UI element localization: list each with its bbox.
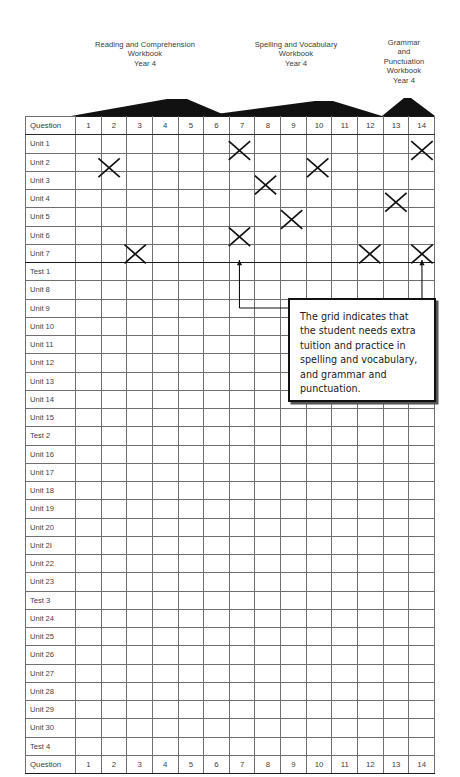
- cell[interactable]: [127, 135, 153, 153]
- cell[interactable]: [383, 409, 409, 427]
- cell[interactable]: [152, 354, 178, 372]
- cell[interactable]: [152, 518, 178, 536]
- cell[interactable]: [178, 226, 204, 244]
- cell[interactable]: [229, 701, 255, 719]
- cell[interactable]: [306, 135, 332, 153]
- cell[interactable]: [383, 719, 409, 737]
- cell[interactable]: [255, 390, 281, 408]
- cell[interactable]: [204, 317, 230, 335]
- cell[interactable]: [358, 190, 384, 208]
- cell[interactable]: [409, 263, 435, 281]
- cell[interactable]: [255, 354, 281, 372]
- cell[interactable]: [127, 536, 153, 554]
- cell[interactable]: [229, 263, 255, 281]
- cell[interactable]: [101, 354, 127, 372]
- cell[interactable]: [358, 171, 384, 189]
- cell[interactable]: [409, 153, 435, 171]
- cell[interactable]: [281, 281, 307, 299]
- cell[interactable]: [358, 573, 384, 591]
- cell[interactable]: [383, 555, 409, 573]
- cell[interactable]: [178, 135, 204, 153]
- cell[interactable]: [178, 591, 204, 609]
- cell[interactable]: [204, 171, 230, 189]
- cell[interactable]: [229, 354, 255, 372]
- cell[interactable]: [152, 682, 178, 700]
- cell[interactable]: [229, 281, 255, 299]
- cell[interactable]: [306, 153, 332, 171]
- cell[interactable]: [178, 372, 204, 390]
- cell[interactable]: [255, 500, 281, 518]
- cell[interactable]: [101, 135, 127, 153]
- cell[interactable]: [358, 482, 384, 500]
- cell[interactable]: [178, 299, 204, 317]
- cell[interactable]: [76, 354, 102, 372]
- cell[interactable]: [152, 299, 178, 317]
- cell[interactable]: [178, 390, 204, 408]
- cell[interactable]: [281, 226, 307, 244]
- cell[interactable]: [281, 682, 307, 700]
- cell[interactable]: [204, 244, 230, 262]
- cell[interactable]: [127, 719, 153, 737]
- cell[interactable]: [281, 573, 307, 591]
- cell[interactable]: [152, 317, 178, 335]
- cell[interactable]: [281, 445, 307, 463]
- cell[interactable]: [204, 482, 230, 500]
- cell[interactable]: [332, 646, 358, 664]
- cell[interactable]: [127, 244, 153, 262]
- cell[interactable]: [101, 171, 127, 189]
- cell[interactable]: [383, 573, 409, 591]
- cell[interactable]: [204, 153, 230, 171]
- cell[interactable]: [178, 153, 204, 171]
- cell[interactable]: [76, 281, 102, 299]
- cell[interactable]: [409, 536, 435, 554]
- cell[interactable]: [332, 573, 358, 591]
- cell[interactable]: [332, 518, 358, 536]
- cell[interactable]: [229, 445, 255, 463]
- cell[interactable]: [101, 482, 127, 500]
- cell[interactable]: [152, 427, 178, 445]
- cell[interactable]: [409, 719, 435, 737]
- cell[interactable]: [255, 336, 281, 354]
- cell[interactable]: [76, 390, 102, 408]
- cell[interactable]: [255, 737, 281, 755]
- cell[interactable]: [204, 463, 230, 481]
- cell[interactable]: [152, 372, 178, 390]
- cell[interactable]: [101, 609, 127, 627]
- cell[interactable]: [204, 208, 230, 226]
- cell[interactable]: [152, 171, 178, 189]
- cell[interactable]: [255, 701, 281, 719]
- cell[interactable]: [255, 372, 281, 390]
- cell[interactable]: [127, 372, 153, 390]
- cell[interactable]: [306, 737, 332, 755]
- cell[interactable]: [409, 555, 435, 573]
- cell[interactable]: [306, 555, 332, 573]
- cell[interactable]: [76, 555, 102, 573]
- cell[interactable]: [178, 281, 204, 299]
- cell[interactable]: [76, 500, 102, 518]
- cell[interactable]: [101, 628, 127, 646]
- cell[interactable]: [358, 208, 384, 226]
- cell[interactable]: [101, 336, 127, 354]
- cell[interactable]: [255, 609, 281, 627]
- cell[interactable]: [127, 664, 153, 682]
- cell[interactable]: [152, 664, 178, 682]
- cell[interactable]: [229, 427, 255, 445]
- cell[interactable]: [152, 646, 178, 664]
- cell[interactable]: [332, 244, 358, 262]
- cell[interactable]: [306, 463, 332, 481]
- cell[interactable]: [76, 573, 102, 591]
- cell[interactable]: [76, 737, 102, 755]
- cell[interactable]: [204, 336, 230, 354]
- cell[interactable]: [204, 628, 230, 646]
- cell[interactable]: [101, 153, 127, 171]
- cell[interactable]: [127, 171, 153, 189]
- cell[interactable]: [409, 500, 435, 518]
- cell[interactable]: [127, 226, 153, 244]
- cell[interactable]: [152, 244, 178, 262]
- cell[interactable]: [76, 701, 102, 719]
- cell[interactable]: [358, 445, 384, 463]
- cell[interactable]: [127, 737, 153, 755]
- cell[interactable]: [152, 500, 178, 518]
- cell[interactable]: [101, 263, 127, 281]
- cell[interactable]: [255, 719, 281, 737]
